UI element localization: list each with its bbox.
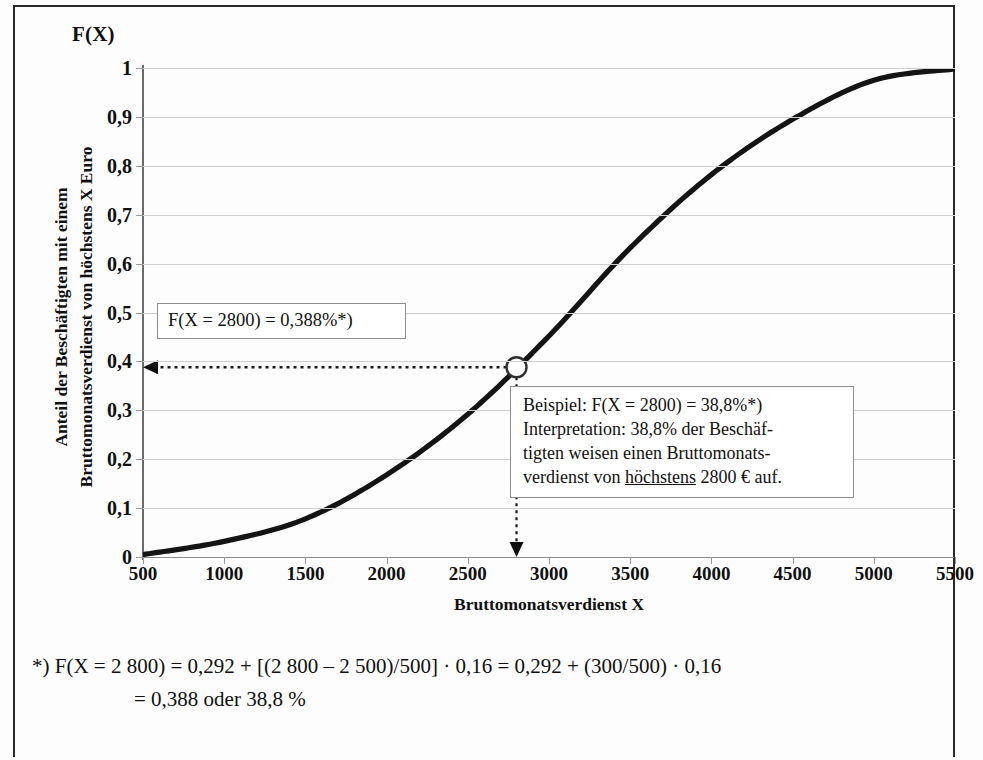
- chart-figure: F(X) Anteil der Beschäftigten mit einem …: [0, 0, 983, 640]
- y-axis-tick: [136, 557, 143, 558]
- x-axis-tick-label: 1000: [205, 563, 243, 585]
- callout-example-line-4: verdienst von höchstens 2800 € auf.: [523, 465, 845, 489]
- page-canvas: F(X) Anteil der Beschäftigten mit einem …: [0, 0, 983, 760]
- y-axis-tick-label: 0,5: [107, 301, 132, 324]
- footnote-line-1: F(X = 2 800) = 0,292 + [(2 800 – 2 500)/…: [55, 654, 721, 678]
- highlight-point-marker[interactable]: [507, 357, 527, 377]
- y-axis-tick-label: 1: [122, 57, 132, 80]
- gridline-y: [143, 68, 955, 69]
- y-axis-tick: [136, 264, 143, 265]
- y-axis-tick-labels: 00,10,20,30,40,50,60,70,80,91: [60, 68, 132, 557]
- callout-example-line-3: tigten weisen einen Bruttomonats-: [523, 441, 845, 465]
- x-axis-tick-label: 3500: [611, 563, 649, 585]
- y-axis-tick: [136, 361, 143, 362]
- footnote-line-2: = 0,388 oder 38,8 %: [32, 683, 937, 716]
- gridline-y: [143, 215, 955, 216]
- footnote-marker: *): [32, 654, 50, 678]
- y-axis-tick: [136, 68, 143, 69]
- y-axis-tick-label: 0,3: [107, 399, 132, 422]
- y-axis-tick: [136, 459, 143, 460]
- callout-example-line-4-suffix: 2800 € auf.: [696, 467, 782, 487]
- x-axis-tick-label: 1500: [286, 563, 324, 585]
- y-axis-tick-label: 0,6: [107, 252, 132, 275]
- y-axis-tick-label: 0,9: [107, 105, 132, 128]
- x-axis-tick-label: 500: [129, 563, 158, 585]
- y-axis-tick: [136, 410, 143, 411]
- x-axis-tick-label: 4500: [774, 563, 812, 585]
- y-axis-tick-label: 0,4: [107, 350, 132, 373]
- x-axis-tick-label: 3000: [530, 563, 568, 585]
- y-axis-title: F(X): [72, 22, 115, 47]
- y-axis-tick: [136, 313, 143, 314]
- callout-example-emphasis: höchstens: [625, 467, 696, 487]
- y-axis-tick: [136, 117, 143, 118]
- x-axis-tick-label: 2000: [368, 563, 406, 585]
- callout-example-line-4-prefix: verdienst von: [523, 467, 625, 487]
- x-axis-tick-labels: 5001000150020002500300035004000450050005…: [143, 563, 955, 589]
- x-axis-tick-label: 5500: [936, 563, 974, 585]
- callout-value-box: F(X = 2800) = 0,388%*): [157, 303, 406, 339]
- y-axis-tick: [136, 508, 143, 509]
- callout-example-line-1: Beispiel: F(X = 2800) = 38,8%*): [523, 393, 845, 417]
- callout-example-box: Beispiel: F(X = 2800) = 38,8%*) Interpre…: [510, 386, 854, 498]
- x-axis-caption: Bruttomonatsverdienst X: [143, 594, 955, 615]
- y-axis-tick: [136, 215, 143, 216]
- y-axis-tick-label: 0,8: [107, 154, 132, 177]
- footnote-block: *) F(X = 2 800) = 0,292 + [(2 800 – 2 50…: [32, 650, 937, 716]
- x-axis-tick-label: 2500: [449, 563, 487, 585]
- gridline-y: [143, 508, 955, 509]
- y-axis-tick-label: 0,1: [107, 497, 132, 520]
- callout-example-line-2: Interpretation: 38,8% der Beschäf-: [523, 417, 845, 441]
- gridline-y: [143, 117, 955, 118]
- gridline-y: [143, 361, 955, 362]
- x-axis-tick-label: 4000: [692, 563, 730, 585]
- y-axis-tick-label: 0,2: [107, 448, 132, 471]
- gridline-y: [143, 166, 955, 167]
- y-axis-tick-label: 0,7: [107, 203, 132, 226]
- x-axis-tick-label: 5000: [855, 563, 893, 585]
- gridline-y: [143, 264, 955, 265]
- y-axis-tick: [136, 166, 143, 167]
- callout-value-text: F(X = 2800) = 0,388%*): [168, 310, 353, 330]
- vertical-guide-arrowhead: [510, 542, 524, 557]
